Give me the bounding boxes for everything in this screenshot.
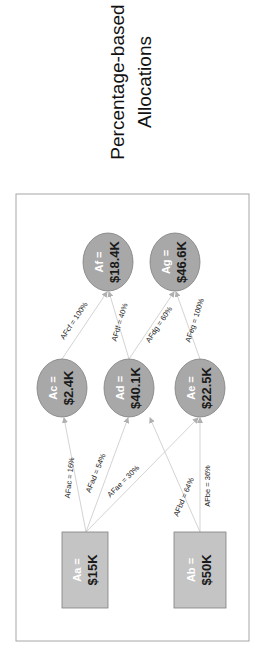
node-af-label: Af = xyxy=(93,251,105,272)
node-aa-value: $15K xyxy=(85,554,100,586)
node-ae-value: $22.5K xyxy=(199,366,214,409)
node-ag-value: $46.6K xyxy=(174,240,189,283)
edge-label-be: AFbe = 36% xyxy=(203,465,212,507)
node-ad-label: Ad = xyxy=(114,376,126,400)
node-ad: Ad = $40.1K xyxy=(104,359,154,417)
node-ag-label: Ag = xyxy=(160,250,172,274)
title-line-2: Allocations xyxy=(134,36,155,128)
node-aa: Aa = $15K xyxy=(62,532,108,608)
node-ac: Ac = $2.4K xyxy=(37,359,87,417)
allocation-diagram: Percentage-based Allocations AFac = 16% … xyxy=(0,0,261,655)
node-ac-value: $2.4K xyxy=(61,370,76,405)
page-title: Percentage-based Allocations xyxy=(107,4,155,159)
node-ae-label: Ae = xyxy=(185,376,197,400)
node-ab-value: $50K xyxy=(199,554,214,586)
node-ag: Ag = $46.6K xyxy=(150,233,200,291)
node-ab: Ab = $50K xyxy=(174,532,226,608)
node-ad-value: $40.1K xyxy=(128,366,143,409)
node-af-value: $18.4K xyxy=(107,240,122,283)
node-ac-label: Ac = xyxy=(47,376,59,400)
node-ae: Ae = $22.5K xyxy=(175,359,225,417)
title-line-1: Percentage-based xyxy=(107,4,128,159)
node-af: Af = $18.4K xyxy=(83,233,133,291)
node-ab-label: Ab = xyxy=(185,558,197,582)
node-aa-label: Aa = xyxy=(71,558,83,582)
